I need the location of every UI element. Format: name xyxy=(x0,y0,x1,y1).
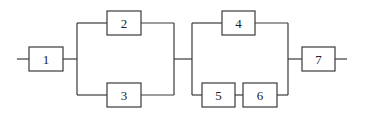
block-label: 5 xyxy=(215,88,222,103)
block-diagram: 1234567 xyxy=(0,0,365,117)
block-label: 6 xyxy=(257,88,264,103)
block-label: 7 xyxy=(315,52,322,67)
block-2: 2 xyxy=(107,11,141,35)
block-label: 1 xyxy=(43,52,50,67)
block-3: 3 xyxy=(107,83,141,107)
block-6: 6 xyxy=(243,83,277,107)
block-label: 3 xyxy=(121,88,128,103)
block-5: 5 xyxy=(202,83,235,107)
connectors xyxy=(17,23,347,95)
block-4: 4 xyxy=(222,11,255,35)
block-1: 1 xyxy=(29,47,63,71)
block-7: 7 xyxy=(302,47,335,71)
block-label: 4 xyxy=(235,16,242,31)
block-label: 2 xyxy=(121,16,128,31)
